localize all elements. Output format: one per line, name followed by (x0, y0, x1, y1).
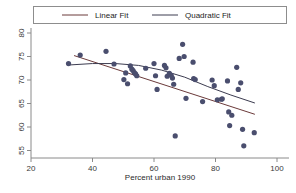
scatter-point (143, 66, 148, 71)
y-tick-label: 65 (17, 99, 26, 108)
scatter-point (200, 99, 205, 104)
scatter-point (225, 78, 230, 83)
scatter-point (190, 60, 195, 65)
scatter-point (220, 96, 225, 101)
y-tick-label: 55 (17, 146, 26, 155)
legend-label-linear-fit: Linear Fit (95, 11, 129, 20)
x-tick-label: 60 (150, 164, 159, 173)
scatter-point (252, 130, 257, 135)
scatter-point (171, 82, 176, 87)
scatter-point (240, 127, 245, 132)
scatter-point (180, 42, 185, 47)
scatter-point (170, 76, 175, 81)
x-tick-label: 80 (211, 164, 220, 173)
scatter-point (238, 80, 243, 85)
x-tick-label: 20 (27, 164, 36, 173)
scatter-point (241, 143, 246, 148)
chart-figure: Linear Fit Quadratic Fit 556065707580 20… (0, 0, 296, 193)
scatter-point (212, 83, 217, 88)
scatter-point (111, 61, 116, 66)
scatter-point (66, 61, 71, 66)
scatter-point (236, 87, 241, 92)
figure-background (0, 0, 296, 193)
scatter-point (151, 61, 156, 66)
y-tick-label: 80 (17, 28, 26, 37)
legend-label-quadratic-fit: Quadratic Fit (185, 11, 232, 20)
scatter-point (153, 73, 158, 78)
scatter-point (103, 49, 108, 54)
x-tick-label: 100 (270, 164, 284, 173)
scatter-point (134, 73, 139, 78)
x-axis-title: Percent urban 1990 (125, 173, 196, 182)
scatter-point (183, 96, 188, 101)
scatter-point (177, 56, 182, 61)
scatter-point (193, 77, 198, 82)
scatter-point (210, 77, 215, 82)
scatter-point (125, 81, 130, 86)
scatter-point (234, 65, 239, 70)
y-tick-label: 75 (17, 52, 26, 61)
scatter-plot-svg: Linear Fit Quadratic Fit 556065707580 20… (0, 0, 296, 193)
scatter-point (163, 65, 168, 70)
y-tick-label: 70 (17, 75, 26, 84)
scatter-point (229, 113, 234, 118)
scatter-point (78, 52, 83, 57)
x-tick-label: 40 (88, 164, 97, 173)
y-tick-label: 60 (17, 122, 26, 131)
scatter-point (154, 87, 159, 92)
scatter-point (123, 70, 128, 75)
scatter-point (182, 54, 187, 59)
scatter-point (173, 133, 178, 138)
scatter-point (121, 77, 126, 82)
scatter-point (227, 123, 232, 128)
